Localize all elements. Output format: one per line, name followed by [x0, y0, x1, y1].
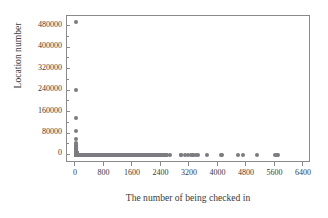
y-tick-label: 240000	[38, 84, 62, 93]
x-tick-mark	[245, 162, 246, 166]
x-tick-label: 4000	[209, 168, 225, 177]
y-tick-label: 320000	[38, 63, 62, 72]
scatter-chart-figure: Location number Distribution of being ch…	[0, 0, 328, 218]
y-tick-label: 480000	[38, 20, 62, 29]
x-tick-label: 2400	[152, 168, 168, 177]
x-tick-label: 6400	[295, 168, 311, 177]
data-point	[241, 153, 245, 157]
y-minor-tick-mark	[66, 79, 69, 80]
x-tick-mark	[274, 162, 275, 166]
data-point	[74, 20, 78, 24]
data-point	[205, 153, 209, 157]
y-tick-mark	[66, 47, 70, 48]
data-point	[74, 129, 78, 133]
y-axis-label: Location number	[12, 1, 23, 111]
y-tick-label: 160000	[38, 106, 62, 115]
x-tick-label: 3200	[181, 168, 197, 177]
x-tick-mark	[188, 162, 189, 166]
y-minor-tick-mark	[66, 100, 69, 101]
plot-area	[67, 16, 309, 161]
y-minor-tick-mark	[66, 57, 69, 58]
y-tick-label: 400000	[38, 41, 62, 50]
data-point	[255, 153, 259, 157]
y-tick-mark	[66, 133, 70, 134]
data-point	[196, 153, 200, 157]
x-tick-label: 5600	[266, 168, 282, 177]
y-tick-label: 0	[58, 148, 62, 157]
y-minor-tick-mark	[66, 143, 69, 144]
data-point	[276, 153, 280, 157]
x-tick-label: 4800	[238, 168, 254, 177]
data-point	[236, 153, 240, 157]
data-point	[74, 88, 78, 92]
plot-frame	[66, 15, 310, 162]
y-minor-tick-mark	[66, 36, 69, 37]
y-tick-mark	[66, 68, 70, 69]
data-point	[74, 116, 78, 120]
x-tick-mark	[74, 162, 75, 166]
x-tick-label: 0	[73, 168, 77, 177]
x-axis-label: The number of being checked in	[66, 192, 310, 203]
y-minor-tick-mark	[66, 122, 69, 123]
y-tick-mark	[66, 25, 70, 26]
x-tick-label: 1600	[124, 168, 140, 177]
y-tick-mark	[66, 111, 70, 112]
x-tick-mark	[131, 162, 132, 166]
x-tick-label: 800	[97, 168, 109, 177]
y-tick-mark	[66, 90, 70, 91]
y-tick-label: 80000	[42, 127, 62, 136]
x-tick-mark	[103, 162, 104, 166]
x-tick-mark	[302, 162, 303, 166]
x-tick-mark	[160, 162, 161, 166]
x-tick-mark	[217, 162, 218, 166]
y-tick-mark	[66, 154, 70, 155]
